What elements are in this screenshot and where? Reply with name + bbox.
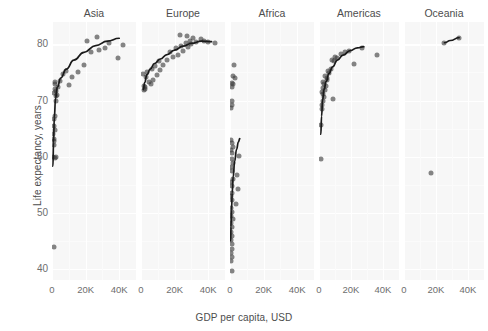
data-point bbox=[81, 62, 86, 67]
gridline-vertical bbox=[351, 22, 352, 280]
data-point bbox=[442, 41, 447, 46]
data-point bbox=[319, 123, 324, 128]
gridline-vertical bbox=[319, 22, 320, 280]
x-tick-label: 20K bbox=[252, 284, 276, 295]
data-point bbox=[230, 269, 235, 274]
gridline-horizontal bbox=[141, 213, 225, 214]
data-point bbox=[54, 98, 59, 103]
gridline-horizontal bbox=[404, 101, 484, 102]
facet-panel-oceania bbox=[404, 22, 484, 280]
data-point bbox=[232, 62, 237, 67]
data-point bbox=[97, 48, 102, 53]
x-tick-label: 20K bbox=[339, 284, 363, 295]
gridline-horizontal bbox=[404, 241, 484, 242]
gridline-vertical bbox=[191, 22, 192, 280]
data-point bbox=[233, 75, 238, 80]
data-point bbox=[155, 73, 160, 78]
data-point bbox=[165, 57, 170, 62]
gridline-vertical bbox=[86, 22, 87, 280]
data-point bbox=[328, 67, 333, 72]
faceted-scatter-chart: Life expectancy, years GDP per capita, U… bbox=[0, 0, 488, 331]
gridline-horizontal bbox=[404, 129, 484, 130]
x-tick-label: 0 bbox=[40, 284, 64, 295]
data-point bbox=[88, 50, 93, 55]
data-point bbox=[360, 45, 365, 50]
data-point bbox=[175, 52, 180, 57]
gridline-vertical bbox=[436, 22, 437, 280]
data-point bbox=[156, 59, 161, 64]
facet-title-americas: Americas bbox=[319, 6, 399, 20]
data-point bbox=[52, 245, 56, 250]
x-tick-label: 0 bbox=[218, 284, 242, 295]
data-point bbox=[64, 68, 69, 73]
data-point bbox=[185, 34, 190, 39]
gridline-vertical bbox=[264, 22, 265, 280]
data-point bbox=[374, 52, 379, 57]
x-tick-label: 40K bbox=[196, 284, 220, 295]
gridline-horizontal bbox=[52, 213, 136, 214]
gridline-vertical bbox=[52, 22, 53, 280]
data-point bbox=[76, 70, 81, 75]
facet-title-europe: Europe bbox=[141, 6, 225, 20]
data-point bbox=[319, 103, 324, 108]
gridline-horizontal bbox=[404, 185, 484, 186]
data-point bbox=[120, 42, 125, 47]
data-point bbox=[160, 62, 165, 67]
data-point bbox=[352, 62, 357, 67]
data-point bbox=[158, 68, 163, 73]
gridline-vertical bbox=[468, 22, 469, 280]
data-point bbox=[234, 201, 239, 206]
y-tick-label: 70 bbox=[4, 95, 48, 106]
gridline-horizontal bbox=[230, 72, 314, 73]
y-tick-label: 40 bbox=[4, 263, 48, 274]
data-point bbox=[53, 155, 58, 160]
data-point bbox=[206, 40, 211, 45]
x-axis-title: GDP per capita, USD bbox=[0, 312, 488, 323]
data-point bbox=[67, 82, 72, 87]
gridline-horizontal bbox=[52, 101, 136, 102]
data-point bbox=[150, 77, 155, 82]
gridline-vertical bbox=[119, 22, 120, 280]
data-point bbox=[236, 187, 241, 192]
gridline-horizontal bbox=[319, 44, 399, 45]
data-point bbox=[102, 45, 107, 50]
x-tick-label: 0 bbox=[307, 284, 331, 295]
gridline-horizontal bbox=[230, 241, 314, 242]
y-axis-tick-labels: 4050607080 bbox=[0, 0, 48, 331]
data-point bbox=[235, 172, 240, 177]
data-point bbox=[230, 85, 235, 90]
gridline-vertical bbox=[247, 22, 248, 280]
data-point bbox=[342, 50, 347, 55]
data-point bbox=[320, 107, 325, 112]
y-tick-label: 60 bbox=[4, 151, 48, 162]
data-point bbox=[429, 171, 434, 176]
gridline-horizontal bbox=[141, 185, 225, 186]
gridline-vertical bbox=[404, 22, 405, 280]
data-point bbox=[212, 41, 217, 46]
gridline-horizontal bbox=[319, 213, 399, 214]
gridline-vertical bbox=[280, 22, 281, 280]
gridline-horizontal bbox=[319, 157, 399, 158]
data-point bbox=[53, 113, 58, 118]
gridline-horizontal bbox=[141, 241, 225, 242]
gridline-horizontal bbox=[52, 129, 136, 130]
gridline-horizontal bbox=[319, 185, 399, 186]
x-tick-label: 40K bbox=[107, 284, 131, 295]
data-point bbox=[144, 69, 149, 74]
data-point bbox=[152, 63, 157, 68]
data-point bbox=[174, 46, 179, 51]
gridline-vertical bbox=[69, 22, 70, 280]
data-point bbox=[85, 38, 90, 43]
gridline-vertical bbox=[383, 22, 384, 280]
gridline-vertical bbox=[297, 22, 298, 280]
gridline-horizontal bbox=[141, 129, 225, 130]
data-point bbox=[230, 183, 235, 188]
data-point bbox=[57, 79, 62, 84]
gridline-vertical bbox=[452, 22, 453, 280]
gridline-horizontal bbox=[141, 101, 225, 102]
gridline-horizontal bbox=[404, 72, 484, 73]
x-tick-label: 20K bbox=[424, 284, 448, 295]
data-point bbox=[168, 50, 173, 55]
gridline-horizontal bbox=[319, 129, 399, 130]
data-point bbox=[94, 34, 99, 39]
